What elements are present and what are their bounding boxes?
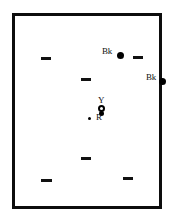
figure-root: Bk Bk Y R: [0, 0, 176, 224]
point-label-bk-right: Bk: [146, 73, 156, 82]
plot-area: Bk Bk Y R: [15, 16, 159, 206]
data-point-bk-right: [159, 78, 166, 85]
point-label-y: Y: [98, 96, 104, 105]
dash-mark: [133, 56, 143, 59]
plot-frame: Bk Bk Y R: [12, 13, 162, 209]
point-label-r: R: [96, 113, 102, 122]
data-point-bk-top: [117, 52, 124, 59]
data-point-r: [88, 117, 91, 120]
dash-mark: [81, 78, 91, 81]
dash-mark: [41, 57, 51, 60]
point-label-bk-top: Bk: [102, 47, 112, 56]
dash-mark: [123, 177, 133, 180]
dash-mark: [41, 179, 52, 182]
dash-mark: [81, 157, 91, 160]
